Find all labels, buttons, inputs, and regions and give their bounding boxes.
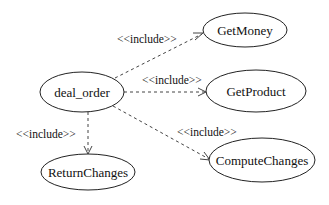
include-relation-getmoney: <<include>>: [115, 33, 203, 78]
include-label: <<include>>: [16, 128, 76, 140]
include-label: <<include>>: [142, 74, 202, 86]
use-case-label: ComputeChanges: [216, 153, 308, 168]
use-case-label: ReturnChanges: [48, 165, 128, 180]
arrowhead-icon: [200, 152, 210, 160]
use-case-diagram: <<include>> <<include>> <<include>> <<in…: [0, 0, 329, 205]
include-relation-getproduct: <<include>>: [124, 74, 206, 96]
use-case-returnchanges[interactable]: ReturnChanges: [41, 154, 135, 190]
use-case-label: GetProduct: [226, 84, 286, 99]
use-case-getproduct[interactable]: GetProduct: [206, 70, 306, 112]
use-case-label: GetMoney: [217, 23, 273, 38]
include-label: <<include>>: [117, 33, 177, 45]
use-case-getmoney[interactable]: GetMoney: [203, 13, 287, 47]
include-relation-returnchanges: <<include>>: [16, 112, 92, 154]
include-label: <<include>>: [177, 126, 237, 138]
use-case-computechanges[interactable]: ComputeChanges: [209, 138, 315, 182]
use-case-deal-order[interactable]: deal_order: [40, 72, 124, 112]
use-case-label: deal_order: [54, 85, 110, 100]
